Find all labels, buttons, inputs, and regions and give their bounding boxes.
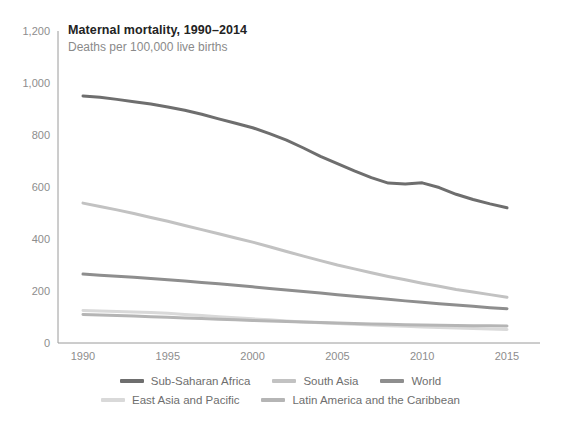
- series-line: [83, 274, 507, 309]
- x-axis-tick-labels: 199019952000200520102015: [71, 350, 519, 362]
- data-series-group: [83, 96, 507, 329]
- x-tick-label: 1995: [156, 350, 180, 362]
- y-tick-label: 0: [44, 337, 50, 349]
- y-axis-tick-labels: 02004006008001,0001,200: [22, 25, 50, 349]
- legend-swatch-icon: [272, 379, 296, 383]
- legend-item[interactable]: Latin America and the Caribbean: [261, 394, 460, 406]
- series-line: [83, 203, 507, 297]
- legend-swatch-icon: [101, 398, 125, 402]
- legend-item[interactable]: South Asia: [272, 375, 358, 387]
- line-chart-plot: 02004006008001,0001,200 1990199520002005…: [0, 0, 561, 371]
- x-tick-label: 2010: [410, 350, 434, 362]
- y-tick-label: 600: [32, 181, 50, 193]
- legend-label: South Asia: [303, 375, 358, 387]
- chart-container: Maternal mortality, 1990–2014 Deaths per…: [0, 0, 561, 431]
- legend-label: Latin America and the Caribbean: [292, 394, 460, 406]
- x-tick-label: 2015: [495, 350, 519, 362]
- x-tick-label: 2005: [325, 350, 349, 362]
- y-tick-label: 400: [32, 233, 50, 245]
- legend-label: East Asia and Pacific: [132, 394, 239, 406]
- legend-label: World: [411, 375, 441, 387]
- legend-swatch-icon: [261, 398, 285, 402]
- legend-item[interactable]: East Asia and Pacific: [101, 394, 239, 406]
- series-line: [83, 96, 507, 208]
- y-tick-label: 200: [32, 285, 50, 297]
- legend-swatch-icon: [380, 379, 404, 383]
- legend-item[interactable]: Sub-Saharan Africa: [120, 375, 251, 387]
- y-tick-label: 1,000: [22, 77, 50, 89]
- chart-legend: Sub-Saharan AfricaSouth AsiaWorld East A…: [0, 371, 561, 409]
- series-line: [83, 314, 507, 326]
- y-tick-label: 800: [32, 129, 50, 141]
- legend-label: Sub-Saharan Africa: [151, 375, 251, 387]
- x-tick-label: 2000: [240, 350, 264, 362]
- legend-item[interactable]: World: [380, 375, 441, 387]
- legend-row-1: Sub-Saharan AfricaSouth AsiaWorld: [0, 371, 561, 390]
- legend-row-2: East Asia and PacificLatin America and t…: [0, 390, 561, 409]
- x-tick-label: 1990: [71, 350, 95, 362]
- legend-swatch-icon: [120, 379, 144, 383]
- y-tick-label: 1,200: [22, 25, 50, 37]
